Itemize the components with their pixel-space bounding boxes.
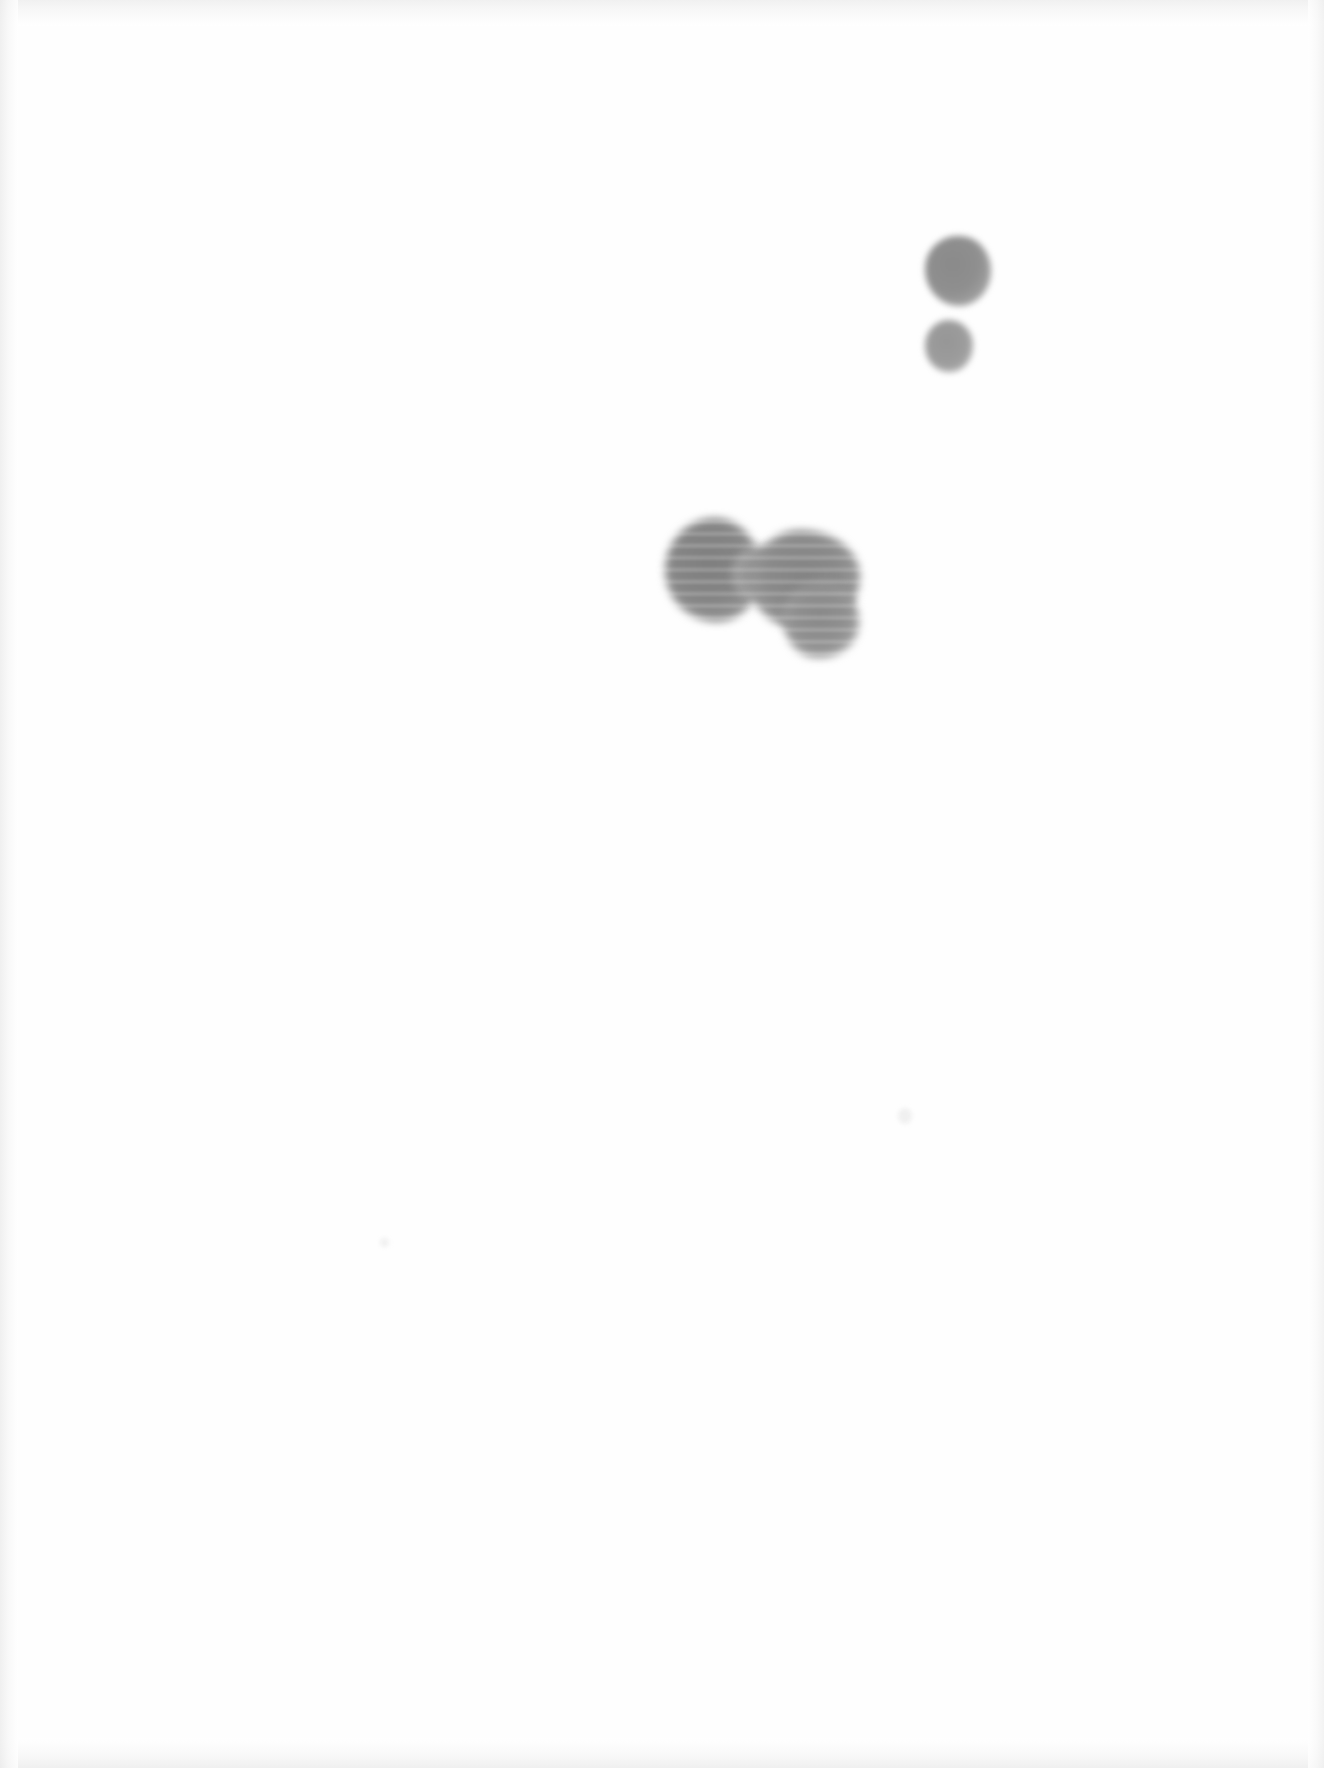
faint-speck-lower-left xyxy=(380,1238,389,1247)
ink-blob-upper-large xyxy=(925,236,991,306)
paper-background xyxy=(0,0,1324,1768)
ink-blob-cluster-tail xyxy=(783,582,859,658)
ink-blob-upper-small xyxy=(925,320,973,372)
ink-blob-cluster xyxy=(655,500,905,690)
faint-speck-middle xyxy=(898,1108,912,1124)
scanned-page xyxy=(0,0,1324,1768)
